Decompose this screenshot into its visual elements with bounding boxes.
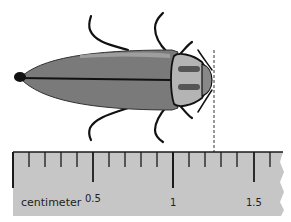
ruler-unit-label: centimeter [21, 196, 81, 209]
beetle-body [14, 50, 212, 110]
beetle-ruler-diagram: centimeter 0.5 1 1.5 [0, 0, 291, 222]
diagram-svg [0, 0, 291, 222]
ruler-tick-label-0-5: 0.5 [85, 193, 101, 204]
ruler-tick-label-1-5: 1.5 [246, 197, 262, 208]
ruler-tick-label-1: 1 [170, 197, 176, 208]
